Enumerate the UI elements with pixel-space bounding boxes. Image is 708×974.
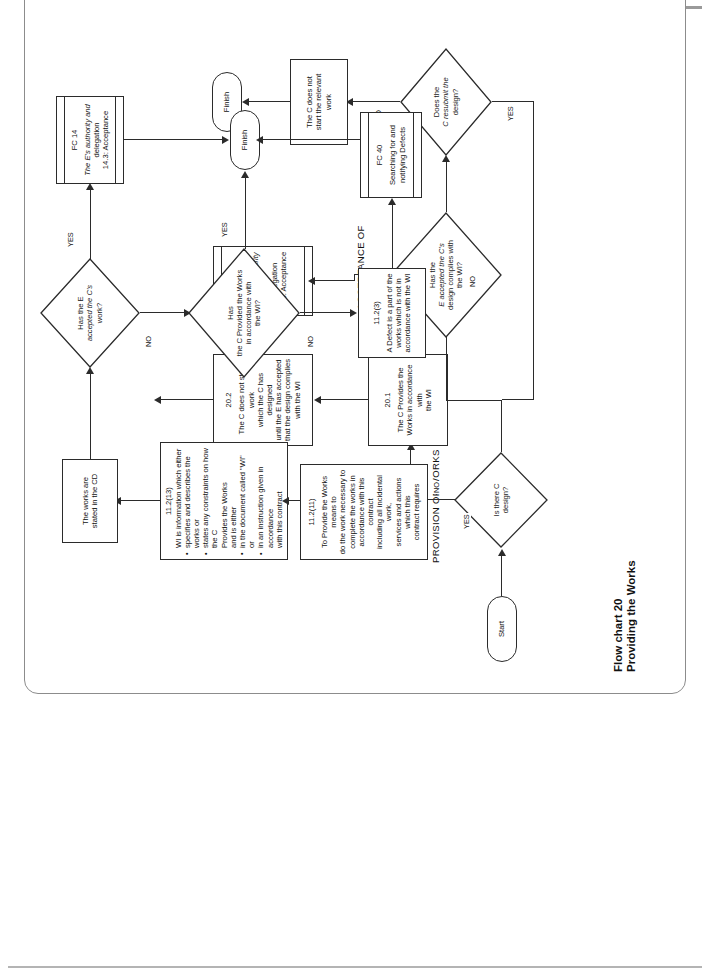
edge-d2-yes-horizontal — [354, 275, 355, 281]
arrow-20-1-to-11-2-11 — [314, 396, 321, 404]
edge-20-1-to-11-2-11 — [320, 399, 368, 400]
d3-line1: Does the — [432, 77, 441, 126]
arrow-cd-to-d4 — [86, 367, 94, 374]
decision-has-e-accepted-work: Has the E accepted the C's work? — [40, 258, 140, 368]
process-11-2-13-bullet2-cont: Provides the Works — [220, 447, 229, 555]
process-c-not-start-relevant-work: The C does not start the relevant work — [290, 59, 348, 145]
arrow-d2-no — [442, 155, 450, 162]
process-11-2-3-line1: A Defect is a part of the — [385, 274, 394, 353]
edge-11-2-11-to-11-2-13 — [288, 500, 300, 501]
d5-line4: the WI? — [253, 270, 262, 356]
edge-d4-yes — [90, 189, 91, 259]
page-bottom-rule — [8, 966, 702, 968]
process-20-1: 20.1 The C Provides the Works in accorda… — [368, 354, 448, 446]
process-20-2-ref: 20.2 — [224, 393, 233, 408]
edge-d4-no — [140, 312, 186, 313]
d2-line1: Has the — [428, 240, 437, 310]
edge-cd-to-d4 — [90, 373, 91, 459]
flowchart-canvas: Flow chart 20 Providing the Works PROVIS… — [0, 0, 708, 708]
edge-11-2-13-up — [120, 500, 160, 501]
edge-label-yes-1: YES — [462, 513, 471, 530]
process-11-2-11-line7: contract requires — [412, 484, 421, 541]
process-11-2-11-line3: complete the works in — [348, 475, 357, 548]
process-11-2-13-bullet2: states any constraints on how the C — [201, 447, 219, 555]
caption-line2: Providing the Works — [625, 560, 638, 672]
process-20-1-line3: the WI — [424, 389, 433, 411]
d3-line2: C resubmit the — [441, 77, 450, 126]
process-11-2-3-line2: works which is not in — [394, 278, 403, 348]
edge-label-yes-5: YES — [220, 221, 229, 238]
arrow-20-2-up — [154, 396, 161, 404]
d4-line3: work? — [95, 285, 104, 341]
decision-has-c-provided-works: Has the C Provided the Works in accordan… — [188, 248, 300, 378]
arrow-start-to-design-decision — [498, 549, 506, 556]
edge-label-no-4: NO — [144, 335, 153, 348]
process-11-2-13-ref: 11.2(13) — [164, 447, 173, 555]
process-11-2-13-bullet3: in the document called "WI" or — [238, 447, 256, 555]
process-11-2-13-bullet4: in an instruction given in accordance — [256, 447, 274, 555]
fc-14-work-line1: The E's authority and — [83, 104, 92, 176]
c-not-start-line1: The C does not — [305, 76, 314, 128]
process-works-stated-cd: The works are stated in the CD — [62, 459, 118, 543]
fc-14-work-line3: 14.3: Acceptance — [101, 111, 110, 169]
process-11-2-3-ref: 11.2(3) — [372, 301, 381, 325]
d2-line3: design complies with — [446, 240, 455, 310]
arrow-d2-yes — [308, 277, 315, 285]
fc-40-ref: FC 40 — [375, 145, 384, 166]
decision-has-c-provided-works-label: Has the C Provided the Works in accordan… — [188, 248, 300, 378]
predefined-fc-14-work: FC 14 The E's authority and delegation 1… — [56, 96, 124, 184]
decision-is-there-c-design-label: Is there C design? — [454, 452, 548, 548]
edge-fc14-design-down — [313, 280, 355, 281]
start-terminator: Start — [487, 596, 517, 662]
process-11-2-11: 11.2(11) To Provide the Works means to d… — [300, 464, 428, 560]
process-11-2-11-line4: accordance with this contract — [357, 469, 375, 555]
arrow-11-2-11-to-11-2-13 — [282, 497, 289, 505]
edge-label-no-2: NO — [468, 275, 477, 288]
decision-is-there-c-design: Is there C design? — [454, 452, 548, 548]
process-11-2-11-line5: including all incidental work, — [375, 469, 393, 555]
decision-label-line1: Is there C — [492, 484, 501, 517]
edge-d3-no-vertical — [352, 101, 400, 102]
d2-line2: E accepted the C's — [437, 240, 446, 310]
process-11-2-3-line3: accordance with the WI — [403, 274, 412, 353]
process-20-2-line5: with the WI — [293, 381, 302, 419]
fc-40-line2: notifying Defects — [398, 127, 407, 183]
arrow-fc14-work-to-finish — [222, 136, 229, 144]
process-11-2-13: 11.2(13) WI is information which either … — [160, 442, 288, 560]
edge-d3-yes-vertical — [492, 101, 534, 102]
d5-line2: the C Provided the Works — [235, 270, 244, 356]
edge-d2-no-horizontal — [446, 160, 447, 212]
d5-line1: Has — [226, 270, 235, 356]
edge-c-not-start-to-finish — [248, 101, 290, 102]
d2-line4: the WI? — [455, 240, 464, 310]
works-stated-cd-line1: The works are — [81, 477, 90, 525]
works-stated-cd-line2: stated in the CD — [90, 474, 99, 528]
process-11-2-13-body: WI is information which either specifies… — [174, 447, 284, 555]
fc-14-work-line2: delegation — [92, 122, 101, 157]
caption-line1: Flow chart 20 — [612, 599, 625, 673]
process-20-1-line1: The C Provides the — [396, 368, 405, 433]
edge-d1-yes-horizontal — [501, 400, 502, 452]
finish-design-label: Finish — [222, 92, 231, 112]
edge-d3-yes-horizontal — [533, 102, 534, 400]
edge-label-no-5: NO — [306, 335, 315, 348]
edge-fc40-to-finish — [262, 139, 360, 140]
edge-fc14-work-to-finish — [124, 139, 224, 140]
process-11-2-13-mid: and is either — [229, 447, 238, 555]
process-11-2-13-intro: WI is information which either — [174, 447, 183, 555]
decision-label-line2: design? — [501, 484, 510, 517]
arrow-d5-no — [350, 309, 357, 317]
page: Flow chart 20 Providing the Works PROVIS… — [0, 0, 708, 974]
d4-line1: Has the E — [76, 285, 85, 341]
arrow-fc40-to-finish — [256, 136, 263, 144]
d5-line3: in accordance with — [244, 270, 253, 356]
process-20-1-ref: 20.1 — [383, 393, 392, 408]
process-11-2-11-line2: do the work necessary to — [338, 470, 347, 554]
edge-start-to-design-decision — [501, 554, 502, 596]
fc-14-work-ref: FC 14 — [70, 130, 79, 151]
process-20-1-line2: Works in accordance with — [405, 359, 423, 441]
d3-line3: design? — [451, 77, 460, 126]
edge-20-2-up — [160, 399, 213, 400]
arrow-d5-yes — [241, 171, 249, 178]
process-11-2-11-line6: services and actions which this — [394, 469, 412, 555]
